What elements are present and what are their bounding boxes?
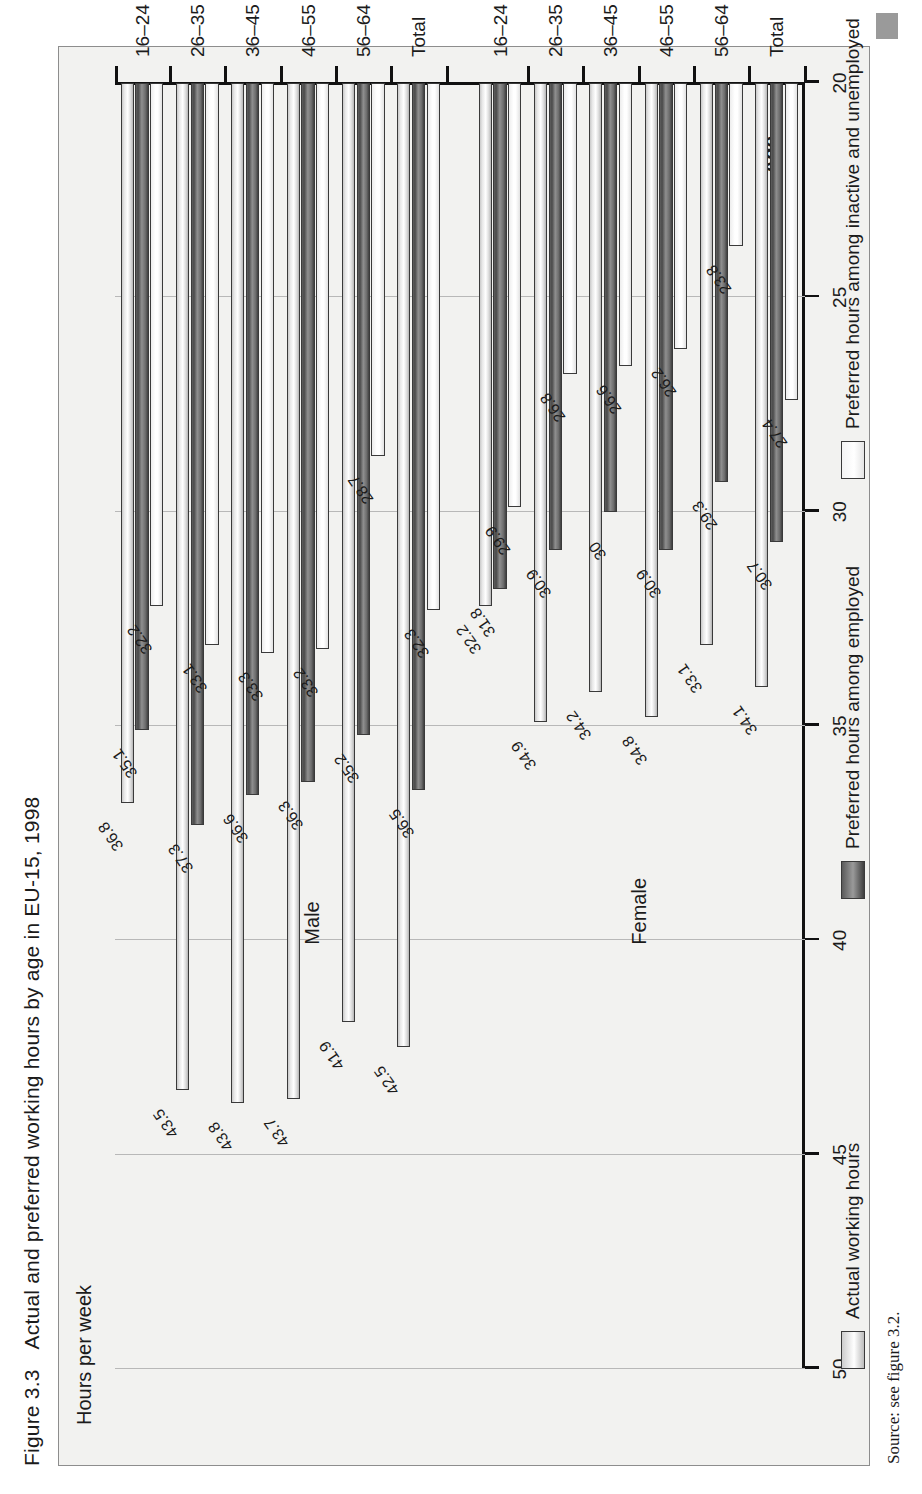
legend-label: Preferred hours among inactive and unemp… xyxy=(842,18,864,429)
page-marker xyxy=(876,13,898,39)
group-label-male: Male xyxy=(301,901,324,944)
group-label-female: Female xyxy=(628,878,651,945)
category-label: 56–64 xyxy=(353,4,375,57)
bar-inact xyxy=(316,83,329,649)
legend-item-actual: Actual working hours xyxy=(841,1143,865,1369)
chart-panel: Hours per week Age 20253035404550 36.835… xyxy=(58,46,870,1466)
bar-value-label: 33.1 xyxy=(674,660,707,696)
bar-value-label: 36.3 xyxy=(275,797,308,833)
legend-item-inact: Preferred hours among inactive and unemp… xyxy=(841,18,865,479)
value-axis-line xyxy=(802,83,805,1369)
bar-actual xyxy=(755,83,768,687)
legend-swatch-actual xyxy=(841,1331,865,1369)
legend-label: Actual working hours xyxy=(842,1143,864,1319)
bar-inact xyxy=(371,83,384,456)
category-tick xyxy=(390,66,393,83)
bar-emp xyxy=(659,83,672,550)
gridline xyxy=(115,939,805,940)
bar-value-label: 42.5 xyxy=(371,1063,404,1099)
value-tick-label: 40 xyxy=(829,930,851,951)
value-tick xyxy=(805,81,819,84)
category-tick xyxy=(693,66,696,83)
value-axis-title: Hours per week xyxy=(73,1285,96,1425)
gridline xyxy=(115,725,805,726)
value-tick xyxy=(805,938,819,941)
category-tick xyxy=(804,66,807,83)
bar-inact xyxy=(563,83,576,374)
figure-rotated-canvas: Figure 3.3Actual and preferred working h… xyxy=(0,0,922,1494)
bar-inact xyxy=(205,83,218,645)
bar-value-label: 36.8 xyxy=(94,819,127,855)
category-tick xyxy=(115,66,118,83)
category-label: 36–45 xyxy=(242,4,264,57)
bar-value-label: 34.1 xyxy=(729,703,762,739)
bar-value-label: 35.1 xyxy=(109,746,142,782)
bar-inact xyxy=(427,83,440,610)
value-tick xyxy=(805,1152,819,1155)
bar-actual xyxy=(121,83,134,803)
bar-actual xyxy=(342,83,355,1022)
category-label: 26–35 xyxy=(545,4,567,57)
bar-value-label: 29.3 xyxy=(688,497,721,533)
bar-value-label: 34.8 xyxy=(618,733,651,769)
source-note: Source: see figure 3.2. xyxy=(884,1312,904,1464)
bar-actual xyxy=(176,83,189,1090)
category-tick xyxy=(280,66,283,83)
category-tick xyxy=(638,66,641,83)
bar-value-label: 30.9 xyxy=(633,566,666,602)
bar-emp xyxy=(770,83,783,542)
bar-actual xyxy=(645,83,658,717)
bar-inact xyxy=(261,83,274,653)
value-tick xyxy=(805,509,819,512)
bar-value-label: 30.7 xyxy=(744,557,777,593)
bar-actual xyxy=(700,83,713,645)
bar-value-label: 34.9 xyxy=(508,737,541,773)
bar-emp xyxy=(493,83,506,589)
figure-caption: Figure 3.3Actual and preferred working h… xyxy=(20,797,44,1466)
bar-value-label: 30.9 xyxy=(522,566,555,602)
category-label: Total xyxy=(766,17,788,57)
bar-value-label: 35.2 xyxy=(330,750,363,786)
bar-value-label: 41.9 xyxy=(316,1037,349,1073)
bar-emp xyxy=(191,83,204,825)
bar-value-label: 43.5 xyxy=(150,1106,183,1142)
category-label: 16–24 xyxy=(132,4,154,57)
category-label: Total xyxy=(408,17,430,57)
category-tick xyxy=(446,66,449,83)
category-tick xyxy=(748,66,751,83)
bar-value-label: 36.5 xyxy=(386,806,419,842)
bar-actual xyxy=(287,83,300,1099)
bar-actual xyxy=(397,83,410,1048)
category-label: 46–55 xyxy=(656,4,678,57)
category-tick xyxy=(335,66,338,83)
bar-emp xyxy=(604,83,617,512)
bar-value-label: 36.6 xyxy=(220,810,253,846)
legend-label: Preferred hours among employed xyxy=(842,566,864,849)
plot-area: 20253035404550 36.835.132.243.537.333.14… xyxy=(115,83,805,1369)
bar-value-label: 37.3 xyxy=(164,840,197,876)
bar-value-label: 43.7 xyxy=(260,1114,293,1150)
value-tick xyxy=(805,295,819,298)
category-label: 56–64 xyxy=(711,4,733,57)
gridline xyxy=(115,1154,805,1155)
legend-swatch-inact xyxy=(841,441,865,479)
legend-item-emp: Preferred hours among employed xyxy=(841,566,865,899)
bar-emp xyxy=(412,83,425,790)
category-tick xyxy=(527,66,530,83)
category-label: 46–55 xyxy=(298,4,320,57)
bar-inact xyxy=(508,83,521,507)
bar-inact xyxy=(150,83,163,606)
category-tick xyxy=(582,66,585,83)
bar-inact xyxy=(674,83,687,349)
figure-number: Figure 3.3 xyxy=(20,1369,43,1466)
bar-inact xyxy=(729,83,742,246)
value-tick xyxy=(805,1367,819,1370)
bar-emp xyxy=(549,83,562,550)
category-label: 36–45 xyxy=(600,4,622,57)
bar-inact xyxy=(785,83,798,400)
bar-inact xyxy=(619,83,632,366)
gridline xyxy=(115,1368,805,1369)
category-tick xyxy=(224,66,227,83)
value-tick-label: 30 xyxy=(829,501,851,522)
figure-title: Actual and preferred working hours by ag… xyxy=(20,797,43,1350)
